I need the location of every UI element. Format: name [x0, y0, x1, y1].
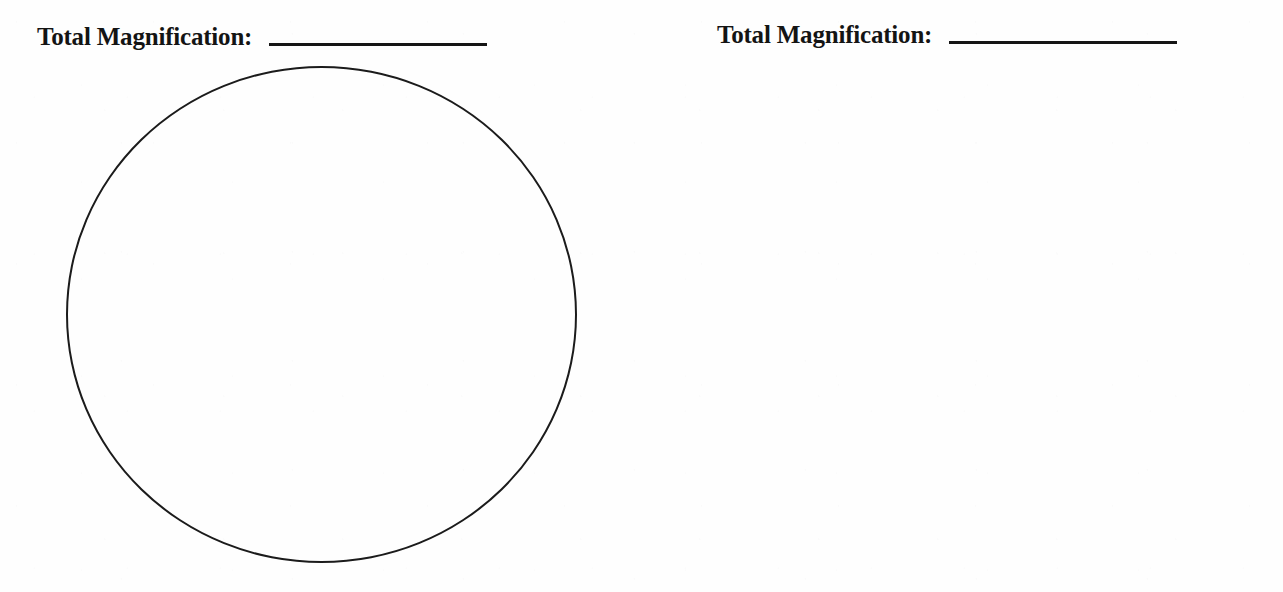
total-magnification-label-left: Total Magnification: — [37, 24, 252, 49]
worksheet-panel-left: Total Magnification: — [0, 0, 640, 592]
field-of-view-circle-left[interactable] — [66, 66, 577, 563]
total-magnification-answer-blank-left[interactable] — [269, 17, 487, 46]
total-magnification-label-right: Total Magnification: — [717, 22, 932, 47]
magnification-label-row-right: Total Magnification: — [717, 14, 1177, 47]
total-magnification-answer-blank-right[interactable] — [949, 15, 1177, 44]
worksheet-panel-right: Total Magnification: — [640, 0, 1283, 592]
magnification-label-row-left: Total Magnification: — [37, 16, 487, 49]
